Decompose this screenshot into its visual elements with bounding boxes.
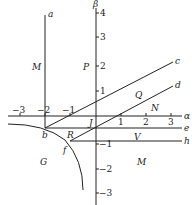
svg-text:1: 1 xyxy=(118,117,124,127)
svg-text:J: J xyxy=(87,118,94,128)
svg-text:1: 1 xyxy=(100,86,106,96)
svg-text:d: d xyxy=(175,80,181,90)
svg-text:M: M xyxy=(136,157,147,167)
svg-text:M: M xyxy=(31,62,42,72)
svg-text:R: R xyxy=(66,130,74,140)
labels: β α a c d e h 4321 −1−2−3 −3−2−1 123 b J… xyxy=(0,0,192,205)
svg-text:β: β xyxy=(92,0,98,9)
svg-text:−2: −2 xyxy=(37,105,50,115)
svg-text:e: e xyxy=(184,123,189,133)
svg-text:2: 2 xyxy=(143,117,149,127)
diagram: β α a c d e h 4321 −1−2−3 −3−2−1 123 b J… xyxy=(0,0,192,205)
svg-text:N: N xyxy=(150,103,160,113)
svg-text:Q: Q xyxy=(135,90,143,100)
svg-text:2: 2 xyxy=(100,61,106,71)
svg-text:P: P xyxy=(82,62,90,72)
svg-text:−3: −3 xyxy=(12,105,26,115)
svg-text:G: G xyxy=(40,157,47,167)
svg-text:3: 3 xyxy=(168,117,174,127)
svg-text:−2: −2 xyxy=(99,164,112,174)
svg-text:b: b xyxy=(42,130,48,140)
svg-text:f: f xyxy=(62,145,68,155)
svg-text:α: α xyxy=(184,111,190,121)
svg-text:h: h xyxy=(184,136,190,146)
svg-text:a: a xyxy=(48,9,53,19)
svg-text:4: 4 xyxy=(100,8,106,18)
svg-text:c: c xyxy=(175,56,180,66)
svg-text:−1: −1 xyxy=(62,105,75,115)
svg-text:V: V xyxy=(134,132,142,142)
svg-text:−3: −3 xyxy=(99,188,113,198)
svg-text:3: 3 xyxy=(100,32,106,42)
svg-text:−1: −1 xyxy=(99,139,112,149)
